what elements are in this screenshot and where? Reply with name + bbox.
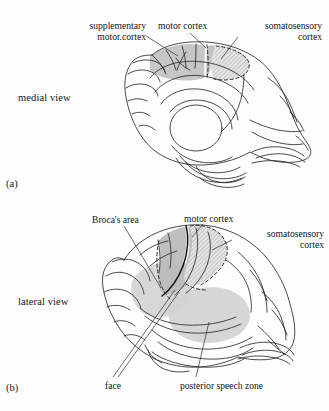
panel-medial-view: supplementary motor.cortex motor cortex … <box>0 0 329 205</box>
medial-view-brain-drawing <box>0 0 329 205</box>
brain-cortex-figure: supplementary motor.cortex motor cortex … <box>0 0 329 411</box>
region-posterior-speech-zone <box>169 287 251 343</box>
lateral-view-brain-drawing <box>0 200 329 411</box>
medial-shaded-regions <box>150 44 249 80</box>
panel-lateral-view: Broca's area motor cortex somatosensory … <box>0 200 329 411</box>
